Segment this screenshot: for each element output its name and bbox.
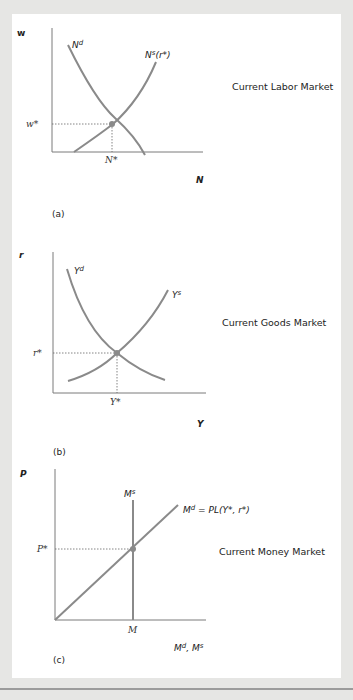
supply-curve [74,62,156,152]
x-axis-label: N [196,175,204,185]
money-demand-label: Md = PL(Y*, r*) [183,504,250,515]
equilibrium-point [109,121,115,127]
chart-money-market: P Ms Md = PL(Y*, r*) P* M Md, Ms (c) Cur… [20,469,325,665]
chart-title: Current Labor Market [232,81,334,92]
x-axis-label: Md, Ms [174,642,204,653]
supply-label: Ns(r*) [145,49,171,60]
chart-goods-market: r Yd Ys r* Y* Y (b) Current Goods Market [19,250,327,457]
panel-label: (c) [53,655,65,665]
equilibrium-y-tick: P* [36,544,48,554]
equilibrium-y-tick: r* [33,348,42,358]
x-axis-label: Y [197,419,205,429]
equilibrium-x-tick: Y* [110,397,121,407]
equilibrium-y-tick: w* [26,119,39,129]
equilibrium-guides [52,124,112,152]
equilibrium-x-tick: N* [104,155,118,165]
demand-label: Yd [74,265,85,276]
demand-label: Nd [72,39,84,50]
money-demand-curve [55,505,178,620]
demand-curve [68,45,145,155]
money-supply-label: Ms [124,488,136,499]
equilibrium-guides [53,353,117,393]
figure-canvas: w Nd Ns(r*) w* N* N (a) Current Labor Ma… [0,0,353,700]
panel-label: (a) [52,209,65,219]
chart-labor-market: w Nd Ns(r*) w* N* N (a) Current Labor Ma… [17,28,334,219]
equilibrium-point [130,546,136,552]
panel-label: (b) [53,447,66,457]
equilibrium-point [114,350,120,356]
y-axis-label: P [20,469,27,479]
y-axis-label: r [19,250,24,260]
supply-curve [68,290,168,381]
y-axis-label: w [17,28,25,38]
equilibrium-x-tick: M [127,625,138,635]
supply-label: Ys [172,289,182,300]
chart-title: Current Goods Market [222,317,327,328]
demand-curve [67,269,165,380]
chart-title: Current Money Market [219,546,325,557]
